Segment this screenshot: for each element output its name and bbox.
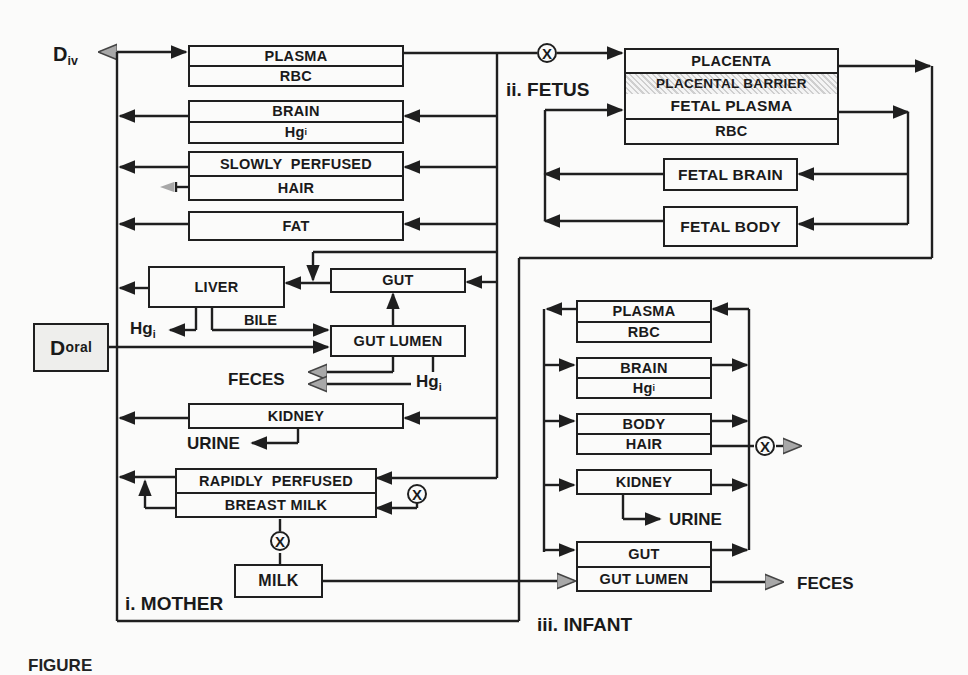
infant-kidney: KIDNEY bbox=[578, 471, 710, 493]
mother-gut-compartment: GUT bbox=[330, 268, 466, 293]
mother-gut: GUT bbox=[332, 270, 464, 291]
section-mother-label: i. MOTHER bbox=[125, 594, 223, 613]
mother-gut-lumen: GUT LUMEN bbox=[332, 327, 464, 355]
mother-plasma: PLASMA bbox=[190, 47, 402, 65]
infant-brain: BRAIN bbox=[578, 359, 710, 377]
infant-kidney-compartment: KIDNEY bbox=[576, 469, 712, 495]
oral-dose-label: Doral bbox=[35, 325, 107, 370]
iv-dose-sub: iv bbox=[67, 54, 77, 68]
multiplier-icon-breast-milk: X bbox=[407, 484, 427, 504]
bile-label: BILE bbox=[244, 313, 277, 328]
mother-rbc: RBC bbox=[190, 65, 402, 85]
hg-main: Hg bbox=[130, 319, 153, 338]
liver-hgi-label: Hgi bbox=[130, 320, 156, 339]
mother-fat: FAT bbox=[190, 213, 402, 239]
iv-dose-label: Div bbox=[53, 44, 78, 68]
mother-slowly-perfused: SLOWLY PERFUSED bbox=[190, 153, 402, 175]
hg-sub: i bbox=[305, 128, 308, 137]
placenta: PLACENTA bbox=[626, 50, 837, 72]
hg-sub: i bbox=[653, 384, 656, 393]
infant-gut-lumen: GUT LUMEN bbox=[578, 566, 710, 591]
mother-slowly-perfused-compartment: SLOWLY PERFUSED HAIR bbox=[188, 151, 404, 201]
oral-dose-main: D bbox=[50, 337, 65, 358]
mother-rapidly-perfused-compartment: RAPIDLY PERFUSED BREAST MILK bbox=[175, 468, 377, 518]
infant-body-hair-compartment: BODY HAIR bbox=[576, 413, 712, 455]
mother-brain-compartment: BRAIN Hgi bbox=[188, 100, 404, 144]
hg-sub: i bbox=[153, 328, 156, 340]
mother-urine-label: URINE bbox=[187, 435, 240, 452]
fetal-brain: FETAL BRAIN bbox=[665, 160, 796, 189]
milk-compartment: MILK bbox=[234, 564, 323, 598]
hg-main: Hg bbox=[633, 381, 653, 396]
section-fetus-label: ii. FETUS bbox=[506, 80, 589, 99]
hg-sub: i bbox=[439, 381, 442, 393]
mother-brain: BRAIN bbox=[190, 102, 402, 121]
infant-brain-compartment: BRAIN Hgi bbox=[576, 357, 712, 399]
multiplier-icon-infant-hair: X bbox=[755, 436, 775, 456]
fetal-brain-compartment: FETAL BRAIN bbox=[663, 158, 798, 191]
figure-caption-partial: FIGURE bbox=[28, 657, 92, 674]
mother-breast-milk: BREAST MILK bbox=[177, 492, 375, 516]
mother-fat-compartment: FAT bbox=[188, 211, 404, 241]
infant-plasma: PLASMA bbox=[578, 302, 710, 321]
mother-kidney-compartment: KIDNEY bbox=[188, 403, 404, 429]
mother-feces-label: FECES bbox=[228, 371, 285, 388]
hg-main: Hg bbox=[416, 372, 439, 391]
iv-dose-main: D bbox=[53, 43, 67, 65]
milk: MILK bbox=[236, 566, 321, 596]
infant-gut-compartment: GUT GUT LUMEN bbox=[576, 541, 712, 592]
infant-brain-hgi: Hgi bbox=[578, 377, 710, 397]
placental-barrier: PLACENTAL BARRIER bbox=[626, 72, 837, 94]
section-infant-label: iii. INFANT bbox=[537, 615, 632, 634]
fetal-body: FETAL BODY bbox=[665, 208, 796, 245]
infant-plasma-rbc-compartment: PLASMA RBC bbox=[576, 300, 712, 343]
infant-body: BODY bbox=[578, 415, 710, 433]
infant-urine-label: URINE bbox=[669, 511, 722, 528]
mother-liver-compartment: LIVER bbox=[148, 266, 285, 308]
placenta-fetal-plasma-compartment: PLACENTA PLACENTAL BARRIER FETAL PLASMA … bbox=[624, 48, 839, 145]
mother-liver: LIVER bbox=[150, 268, 283, 306]
mother-rapidly-perfused: RAPIDLY PERFUSED bbox=[177, 470, 375, 492]
fetal-rbc: RBC bbox=[626, 118, 837, 143]
infant-gut: GUT bbox=[578, 543, 710, 566]
mother-kidney: KIDNEY bbox=[190, 405, 402, 427]
oral-dose-box: Doral bbox=[33, 323, 109, 372]
infant-feces-label: FECES bbox=[797, 575, 854, 592]
lumen-hgi-label: Hgi bbox=[416, 373, 442, 392]
mother-plasma-rbc-compartment: PLASMA RBC bbox=[188, 45, 404, 87]
infant-hair: HAIR bbox=[578, 433, 710, 453]
hair-excretion-arrow-icon bbox=[156, 180, 190, 194]
fetal-plasma: FETAL PLASMA bbox=[626, 94, 837, 118]
mother-gut-lumen-compartment: GUT LUMEN bbox=[330, 325, 466, 357]
mother-brain-hgi: Hgi bbox=[190, 121, 402, 142]
infant-rbc: RBC bbox=[578, 321, 710, 342]
multiplier-icon-milk-transfer: X bbox=[270, 531, 290, 551]
oral-dose-sub: oral bbox=[65, 341, 92, 355]
multiplier-icon-placenta: X bbox=[537, 43, 557, 63]
mother-hair: HAIR bbox=[190, 175, 402, 199]
hg-main: Hg bbox=[285, 125, 305, 140]
fetal-body-compartment: FETAL BODY bbox=[663, 206, 798, 247]
